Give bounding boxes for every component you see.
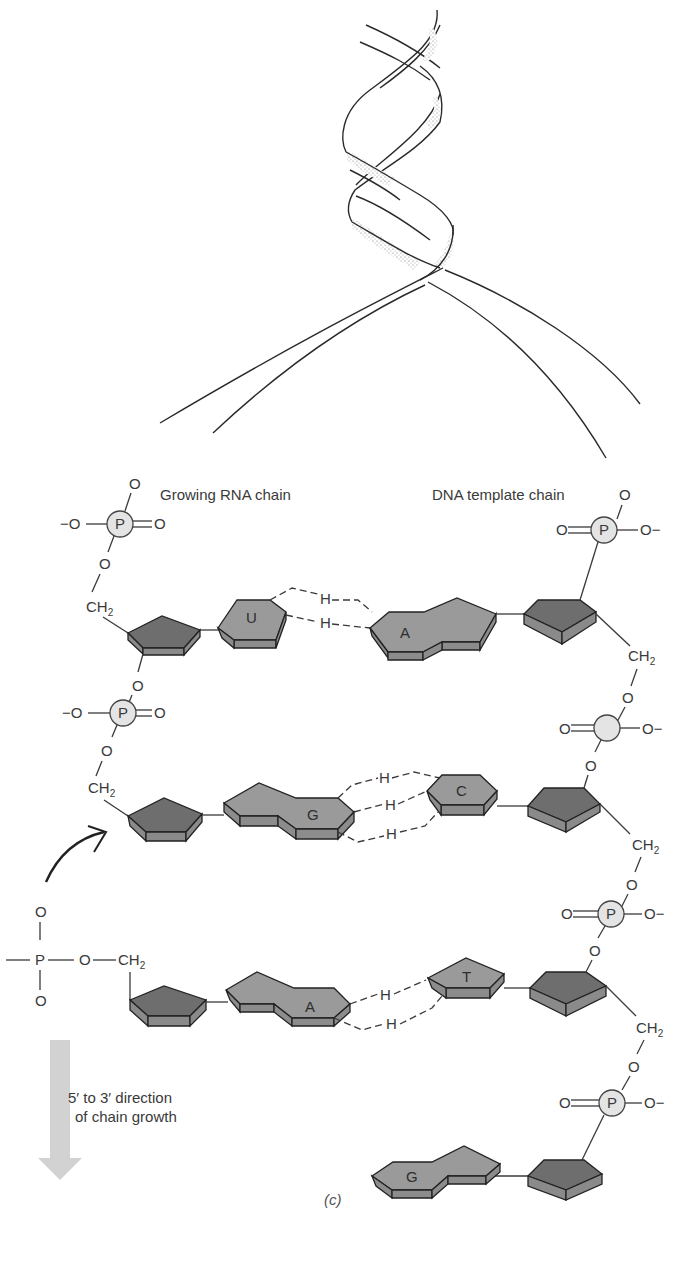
dna-sugar-2 — [528, 788, 600, 832]
panel-caption: (c) — [324, 1191, 342, 1208]
ch2-label: CH2 — [628, 647, 656, 667]
svg-text:O−: O− — [644, 905, 665, 922]
ch2-label: CH2 — [632, 836, 660, 856]
svg-text:P: P — [599, 521, 609, 538]
svg-text:A: A — [400, 624, 410, 641]
svg-text:U: U — [246, 609, 257, 626]
svg-text:−O: −O — [60, 515, 80, 532]
svg-text:G: G — [406, 1168, 418, 1185]
svg-text:O: O — [622, 689, 634, 706]
rna-base-a: A — [226, 972, 350, 1026]
direction-label-line2: of chain growth — [75, 1108, 177, 1125]
rna-sugar-3 — [130, 986, 206, 1026]
rna-base-u: U — [218, 600, 286, 648]
dna-phosphate-4: P O O− — [559, 1090, 665, 1160]
growing-rna-chain-label: Growing RNA chain — [160, 486, 291, 503]
svg-text:H: H — [379, 769, 390, 786]
h-bonds-u-a: H H — [270, 588, 372, 631]
svg-text:O−: O− — [642, 720, 663, 737]
rna-sugar-1 — [128, 616, 200, 655]
svg-text:O−: O− — [640, 521, 661, 538]
svg-text:O: O — [619, 486, 631, 503]
svg-text:O: O — [628, 1058, 640, 1075]
rna-base-g: G — [224, 783, 354, 839]
svg-text:H: H — [386, 825, 397, 842]
dna-base-t: T — [428, 958, 504, 998]
svg-text:O: O — [559, 720, 571, 737]
svg-text:O: O — [35, 992, 47, 1009]
svg-text:P: P — [115, 515, 125, 532]
ch2-label: CH2 — [118, 951, 146, 971]
svg-text:O−: O− — [644, 1094, 665, 1111]
transcription-diagram: Growing RNA chain DNA template chain O P… — [0, 0, 678, 1266]
svg-text:P: P — [35, 951, 45, 968]
svg-text:G: G — [307, 806, 319, 823]
svg-text:O: O — [132, 677, 144, 694]
svg-text:O: O — [129, 475, 141, 492]
rna-phosphate-2: O P −O O O CH2 — [62, 654, 166, 816]
ch2-label: CH2 — [86, 598, 114, 618]
h-bonds-g-c: H H H — [338, 769, 440, 842]
svg-text:O: O — [154, 515, 166, 532]
dna-template-chain-label: DNA template chain — [432, 486, 565, 503]
svg-text:−O: −O — [62, 704, 82, 721]
dna-double-helix — [160, 10, 640, 458]
svg-text:H: H — [320, 590, 331, 607]
dna-base-g: G — [372, 1146, 500, 1198]
svg-text:H: H — [320, 614, 331, 631]
dna-sugar-3 — [530, 972, 606, 1016]
rna-sugar-2 — [128, 798, 202, 841]
svg-text:P: P — [607, 1094, 617, 1111]
svg-text:O: O — [559, 1094, 571, 1111]
svg-text:T: T — [462, 968, 471, 985]
svg-text:O: O — [585, 757, 597, 774]
svg-text:H: H — [386, 1015, 397, 1032]
ch2-label: CH2 — [88, 779, 116, 799]
svg-text:O: O — [99, 555, 111, 572]
svg-text:H: H — [380, 986, 391, 1003]
svg-text:O: O — [626, 876, 638, 893]
figure-canvas: Growing RNA chain DNA template chain O P… — [0, 0, 678, 1266]
ch2-label: CH2 — [636, 1019, 664, 1039]
svg-text:P: P — [606, 905, 616, 922]
svg-text:O: O — [79, 951, 91, 968]
svg-text:O: O — [154, 704, 166, 721]
svg-text:H: H — [385, 796, 396, 813]
curved-arrow-icon — [46, 826, 106, 882]
svg-text:A: A — [305, 998, 315, 1015]
svg-text:O: O — [101, 742, 113, 759]
direction-label-line1: 5′ to 3′ direction — [68, 1089, 172, 1106]
rna-phosphate-1: O P −O O O CH2 — [60, 475, 166, 633]
dna-base-a: A — [370, 598, 496, 660]
svg-text:P: P — [118, 704, 128, 721]
dna-sugar-1 — [524, 600, 596, 644]
svg-text:O: O — [561, 905, 573, 922]
svg-text:O: O — [589, 942, 601, 959]
svg-text:O: O — [556, 521, 568, 538]
dna-base-c: C — [427, 775, 497, 815]
svg-text:C: C — [456, 782, 467, 799]
dna-sugar-4 — [528, 1160, 602, 1200]
incoming-nucleotide-phosphate: O P O CH2 O — [6, 903, 146, 1009]
svg-text:O: O — [35, 903, 47, 920]
